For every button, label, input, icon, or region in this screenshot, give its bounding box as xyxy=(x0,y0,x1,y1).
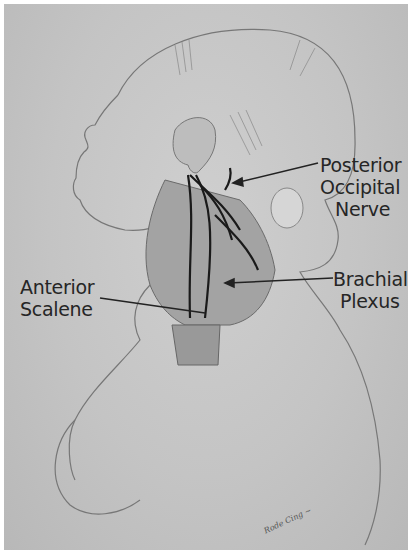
occipital-bump xyxy=(271,188,303,228)
ear-outline xyxy=(173,118,216,173)
trachea xyxy=(172,325,220,365)
label-line: Nerve xyxy=(320,198,401,220)
label-line: Occipital xyxy=(320,176,401,198)
label-line: Brachial xyxy=(333,268,408,290)
label-line: Scalene xyxy=(20,298,94,320)
label-posterior-occipital-nerve: Posterior Occipital Nerve xyxy=(320,154,401,220)
leader-posterior-occipital xyxy=(235,163,318,183)
label-anterior-scalene: Anterior Scalene xyxy=(20,276,94,320)
label-brachial-plexus: Brachial Plexus xyxy=(333,268,408,312)
breast-outline xyxy=(55,420,140,514)
label-line: Anterior xyxy=(20,276,94,298)
illustration-frame: Posterior Occipital Nerve Brachial Plexu… xyxy=(0,0,416,555)
label-line: Posterior xyxy=(320,154,401,176)
label-line: Plexus xyxy=(333,290,408,312)
